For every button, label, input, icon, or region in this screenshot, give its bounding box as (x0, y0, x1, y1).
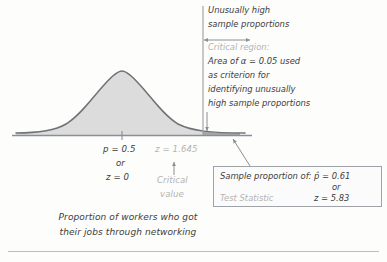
caption-line-1: Proportion of workers who got (38, 213, 218, 222)
curve-fill-main (16, 71, 240, 135)
critical-value-label-line2: value (160, 190, 184, 199)
annotation-line-4: as criterion for (208, 70, 384, 84)
sample-proportion-leader-line (233, 139, 250, 166)
annotation-line-1: Unusually high (208, 5, 384, 19)
annotation-line-2: sample proportions (208, 19, 384, 34)
test-statistic-z-value: z = 5.83 (314, 193, 349, 203)
center-label-p: p = 0.5 (103, 145, 136, 154)
sample-proportion-or: or (332, 182, 341, 192)
center-label-z: z = 0 (106, 173, 129, 182)
critical-region-label: Critical region: (208, 42, 384, 56)
caption-line-2: their jobs through networking (38, 228, 218, 237)
sample-proportion-line: Sample proportion of: p̂ = 0.61 (220, 171, 350, 181)
bottom-divider-rule (8, 251, 379, 252)
critical-value-label-line1: Critical (157, 176, 188, 185)
annotation-block: Unusually high sample proportions Critic… (208, 5, 384, 112)
annotation-line-5: identifying unusually (208, 84, 384, 98)
sample-proportion-box: Sample proportion of: p̂ = 0.61 or Test … (213, 166, 382, 207)
annotation-line-6: high sample proportions (208, 98, 384, 112)
center-label-or: or (116, 159, 125, 168)
test-statistic-label: Test Statistic (220, 193, 273, 203)
critical-value-z-label: z = 1.645 (155, 145, 198, 154)
annotation-line-3: Area of α = 0.05 used (208, 56, 384, 70)
normal-distribution-figure: Unusually high sample proportions Critic… (0, 0, 387, 262)
